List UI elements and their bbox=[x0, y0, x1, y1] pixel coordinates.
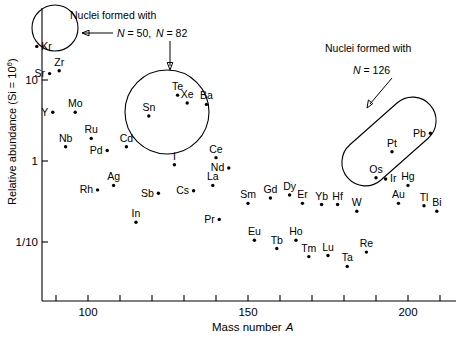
y-tick-label: 1/10 bbox=[16, 236, 38, 248]
data-point-label: Tb bbox=[271, 234, 283, 246]
data-point-marker bbox=[346, 265, 349, 268]
data-point: In bbox=[132, 207, 141, 224]
data-point-label: Zr bbox=[54, 56, 64, 68]
x-axis-ticks: 100150200 bbox=[56, 295, 440, 318]
data-point-marker bbox=[326, 254, 329, 257]
x-axis-title-main: Mass number bbox=[212, 321, 282, 333]
data-point-label: Eu bbox=[248, 225, 261, 237]
data-point-marker bbox=[48, 72, 51, 75]
data-point-marker bbox=[406, 184, 409, 187]
data-point: Hg bbox=[401, 170, 415, 187]
data-point-marker bbox=[58, 69, 61, 72]
data-point-marker bbox=[218, 218, 221, 221]
data-point: Sr bbox=[35, 67, 52, 79]
x-tick-label: 200 bbox=[398, 306, 417, 318]
data-point: Rh bbox=[80, 183, 100, 195]
data-point-marker bbox=[205, 103, 208, 106]
annotation-n126-value: N = 126 bbox=[353, 64, 390, 76]
data-point-marker bbox=[422, 204, 425, 207]
data-point-label: Pr bbox=[204, 213, 215, 225]
data-point: La bbox=[207, 170, 219, 187]
data-point-marker bbox=[301, 202, 304, 205]
y-axis-ticks: 1011/10 bbox=[16, 74, 48, 248]
data-point: Hf bbox=[332, 190, 343, 207]
data-point-label: Nb bbox=[59, 132, 73, 144]
data-point-marker bbox=[51, 111, 54, 114]
data-point-label: Hf bbox=[332, 190, 343, 202]
data-point: Lu bbox=[322, 241, 334, 258]
annotation-n82-value: N = 82 bbox=[156, 27, 187, 39]
data-point-marker bbox=[365, 250, 368, 253]
data-point-marker bbox=[192, 189, 195, 192]
data-point-label: Ta bbox=[342, 251, 353, 263]
data-point: Ru bbox=[84, 123, 98, 140]
y-axis-title-main: Relative abundance (Si = 10 bbox=[6, 66, 18, 205]
data-point: Nb bbox=[59, 132, 73, 149]
data-point-label: Cd bbox=[120, 132, 134, 144]
data-point-label: Pd bbox=[90, 144, 103, 156]
data-point-label: Y bbox=[41, 106, 48, 118]
data-point-marker bbox=[227, 166, 230, 169]
data-point-marker bbox=[157, 192, 160, 195]
data-point: W bbox=[352, 196, 362, 213]
data-point-label: W bbox=[352, 196, 362, 208]
data-point-marker bbox=[134, 221, 137, 224]
x-tick-label: 100 bbox=[78, 306, 97, 318]
data-point-label: Sr bbox=[35, 67, 46, 79]
data-point-label: Sm bbox=[240, 188, 256, 200]
data-point-marker bbox=[397, 202, 400, 205]
data-point-label: Ho bbox=[289, 225, 303, 237]
data-point-label: Mo bbox=[68, 97, 83, 109]
data-point-marker bbox=[125, 145, 128, 148]
data-point-label: Lu bbox=[322, 241, 334, 253]
data-point-marker bbox=[294, 239, 297, 242]
data-point-marker bbox=[176, 93, 179, 96]
data-point-marker bbox=[35, 45, 38, 48]
data-point: Cd bbox=[120, 132, 134, 149]
data-point-label: Os bbox=[369, 163, 382, 175]
x-tick-label: 150 bbox=[238, 306, 257, 318]
data-point: Sm bbox=[240, 188, 256, 205]
data-point: Re bbox=[360, 237, 374, 254]
svg-text:Relative abundance (Si = 106): Relative abundance (Si = 106) bbox=[5, 58, 18, 205]
data-point: Pt bbox=[387, 137, 397, 154]
data-point-label: Ir bbox=[390, 172, 397, 184]
plot-canvas: 100150200 1011/10 Relative abundance (Si… bbox=[0, 0, 458, 349]
data-point-marker bbox=[435, 210, 438, 213]
data-point: Os bbox=[369, 163, 382, 180]
data-point-label: Cs bbox=[176, 184, 189, 196]
y-axis-title: Relative abundance (Si = 106) bbox=[5, 58, 18, 205]
data-point: Tb bbox=[271, 234, 283, 251]
data-point: Bi bbox=[432, 196, 441, 213]
data-point-marker bbox=[288, 193, 291, 196]
data-point-label: Sn bbox=[142, 101, 155, 113]
y-tick-label: 1 bbox=[32, 155, 38, 167]
data-point-label: La bbox=[207, 170, 219, 182]
data-point-marker bbox=[253, 239, 256, 242]
data-point: Zr bbox=[54, 56, 64, 73]
data-point-marker bbox=[106, 149, 109, 152]
data-point-label: In bbox=[132, 207, 141, 219]
data-point: Xe bbox=[181, 88, 194, 105]
data-point-marker bbox=[384, 177, 387, 180]
data-point-marker bbox=[112, 184, 115, 187]
data-point: Yb bbox=[315, 190, 328, 207]
data-point-marker bbox=[147, 114, 150, 117]
data-point-label: Ce bbox=[209, 143, 223, 155]
data-point-marker bbox=[355, 210, 358, 213]
data-point-marker bbox=[429, 132, 432, 135]
data-point: Sb bbox=[141, 187, 160, 199]
data-point-marker bbox=[320, 203, 323, 206]
data-point-label: I bbox=[173, 150, 176, 162]
data-point: Gd bbox=[263, 183, 277, 200]
data-point: Ho bbox=[289, 225, 303, 242]
data-point: Mo bbox=[68, 97, 83, 114]
annotation-n126-rest: = 126 bbox=[361, 64, 391, 76]
annotation-n50-rest: = 50, bbox=[125, 27, 152, 39]
annotation-labels: Nuclei formed with N = 50, N = 82 Nuclei… bbox=[70, 9, 412, 76]
data-point-marker bbox=[90, 137, 93, 140]
data-point: Tm bbox=[301, 242, 316, 259]
data-point-label: Bi bbox=[432, 196, 441, 208]
data-point: Y bbox=[41, 106, 54, 118]
data-point-marker bbox=[64, 145, 67, 148]
